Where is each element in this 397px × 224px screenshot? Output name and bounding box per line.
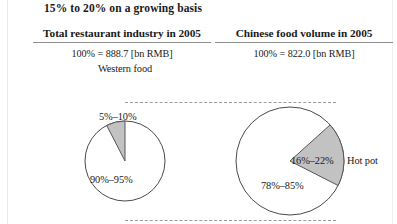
callout-western-food: Western food [95,62,155,75]
callout-hot-pot: Hot pot [347,155,378,167]
pie-left-rest-label: 90%–95% [90,174,133,186]
pie-right-rest-label: 78%–85% [261,180,304,192]
figure-root: 15% to 20% on a growing basis Total rest… [0,0,397,224]
pie-right-slice-label: 16%–22% [291,155,334,167]
pie-charts-svg [0,0,397,224]
pie-left-slice-label: 5%–10% [99,111,137,123]
